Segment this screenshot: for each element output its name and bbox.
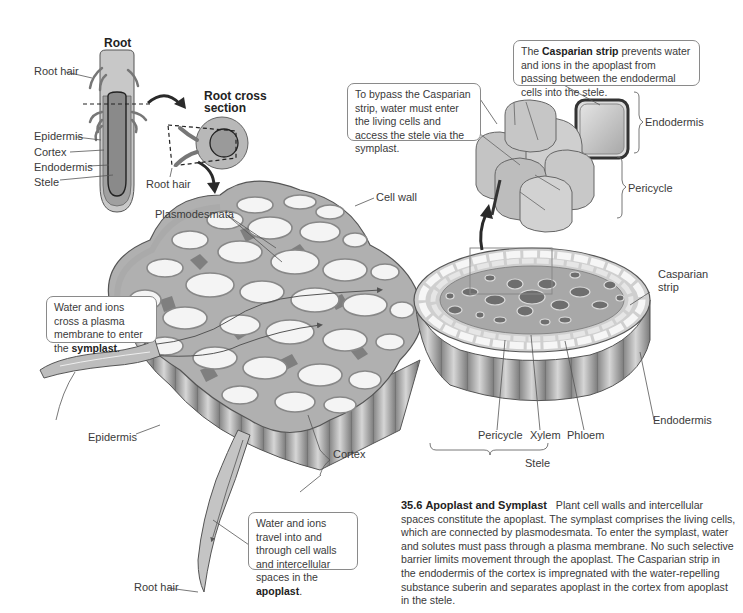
label-cortex-top: Cortex — [34, 146, 66, 159]
stele-block — [414, 248, 650, 401]
curved-arrow-icon — [148, 96, 180, 104]
label-pericycle-inset: Pericycle — [628, 182, 673, 195]
callout-bypass-casparian: To bypass the Casparian strip, water mus… — [347, 83, 481, 141]
label-cell-wall: Cell wall — [376, 191, 417, 204]
figure-number: 35.6 — [401, 499, 422, 511]
label-plasmodesmata: Plasmodesmata — [155, 208, 234, 221]
label-xylem: Xylem — [530, 429, 561, 442]
symplast-term: symplast — [72, 342, 118, 354]
label-stele-top: Stele — [34, 176, 59, 189]
label-endodermis-main: Endodermis — [653, 414, 712, 427]
figure-caption-text: Plant cell walls and intercellular space… — [401, 499, 735, 606]
label-root-hair-bottom: Root hair — [134, 581, 179, 594]
label-phloem: Phloem — [567, 429, 604, 442]
figure-title: Apoplast and Symplast — [425, 499, 547, 511]
label-pericycle-main: Pericycle — [478, 429, 523, 442]
root-title: Root — [104, 36, 131, 50]
callout-apoplast: Water and ions travel into and through c… — [248, 512, 358, 570]
apoplast-term: apoplast — [256, 585, 299, 597]
callout-symplast: Water and ions cross a plasma membrane t… — [46, 296, 157, 343]
root-hair-bottom — [198, 430, 250, 592]
casparian-strip-term: Casparian strip — [542, 45, 618, 57]
figure-caption: 35.6 Apoplast and Symplast Plant cell wa… — [401, 499, 737, 608]
label-cortex-main: Cortex — [333, 448, 365, 461]
arrow-up-icon — [481, 214, 486, 250]
label-stele-main: Stele — [525, 457, 550, 470]
callout-casparian-strip: The Casparian strip prevents water and i… — [513, 40, 700, 86]
label-endodermis-inset: Endodermis — [645, 116, 704, 129]
label-root-hair-top: Root hair — [34, 65, 79, 78]
label-root-hair-cross: Root hair — [146, 178, 191, 191]
label-endodermis-top: Endodermis — [34, 161, 93, 174]
label-epidermis-main: Epidermis — [88, 431, 137, 444]
cross-section-title-2: section — [204, 101, 246, 115]
label-epidermis-top: Epidermis — [34, 130, 83, 143]
label-casparian-strip-2: strip — [658, 281, 679, 294]
label-casparian-strip-1: Casparian — [658, 268, 708, 281]
